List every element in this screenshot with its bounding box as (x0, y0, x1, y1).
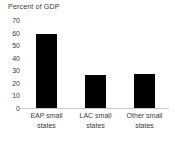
x-label-line: EAP small (22, 111, 71, 121)
bar-series (22, 20, 169, 108)
x-label-eap-small-states: EAP small states (22, 111, 71, 130)
x-label-line: states (71, 121, 120, 131)
x-label-line: Other small (120, 111, 169, 121)
y-tick-50: 50 (0, 42, 20, 49)
x-label-line: LAC small (71, 111, 120, 121)
x-label-lac-small-states: LAC small states (71, 111, 120, 130)
y-tick-10: 10 (0, 92, 20, 99)
x-axis-line (20, 108, 169, 109)
y-tick-20: 20 (0, 79, 20, 86)
y-tick-30: 30 (0, 67, 20, 74)
chart-title: Percent of GDP (8, 2, 60, 11)
y-tick-70: 70 (0, 17, 20, 24)
bar-slot-1 (71, 20, 120, 108)
y-tick-40: 40 (0, 54, 20, 61)
bar-eap-small-states (36, 34, 57, 108)
x-label-line: states (120, 121, 169, 131)
y-axis: 70 60 50 40 30 20 10 0 (0, 14, 20, 114)
x-label-other-small-states: Other small states (120, 111, 169, 130)
bar-chart: Percent of GDP 70 60 50 40 30 20 10 0 EA… (0, 0, 175, 142)
bar-slot-2 (120, 20, 169, 108)
bar-slot-0 (22, 20, 71, 108)
x-axis-labels: EAP small states LAC small states Other … (22, 111, 169, 130)
bar-lac-small-states (85, 75, 106, 108)
bar-other-small-states (134, 74, 155, 108)
x-label-line: states (22, 121, 71, 131)
y-tick-0: 0 (0, 105, 20, 112)
y-tick-60: 60 (0, 29, 20, 36)
